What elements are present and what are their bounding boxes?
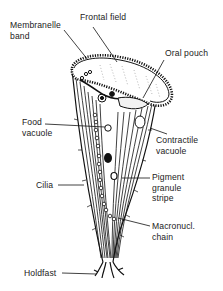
contractile-vacuole bbox=[135, 116, 145, 128]
pigment-body bbox=[104, 153, 112, 163]
food-vacuole bbox=[105, 125, 111, 131]
label-contractile-vacuole: Contractile vacuole bbox=[156, 135, 198, 156]
label-oral-pouch: Oral pouch bbox=[165, 48, 208, 59]
label-line: band bbox=[10, 31, 61, 42]
label-pigment-granule-stripe: Pigment granule stripe bbox=[152, 172, 184, 204]
label-line: vacuole bbox=[156, 146, 198, 157]
label-food-vacuole: Food vacuole bbox=[22, 117, 52, 138]
holdfast bbox=[94, 262, 124, 278]
label-line: chain bbox=[152, 232, 195, 243]
label-line: vacuole bbox=[22, 128, 52, 139]
label-cilia: Cilia bbox=[36, 180, 53, 191]
label-macronucleus-chain: Macronucl. chain bbox=[152, 221, 195, 242]
label-line: Food bbox=[22, 117, 52, 128]
label-line: Membranelle bbox=[10, 20, 61, 31]
label-line: Contractile bbox=[156, 135, 198, 146]
pigment-granule bbox=[111, 173, 117, 180]
label-line: Macronucl. bbox=[152, 221, 195, 232]
label-line: granule bbox=[152, 183, 184, 194]
label-holdfast: Holdfast bbox=[24, 268, 56, 279]
stentor-diagram: Membranelle band Frontal field Oral pouc… bbox=[0, 0, 223, 291]
label-line: Pigment bbox=[152, 172, 184, 183]
label-membranelle-band: Membranelle band bbox=[10, 20, 61, 41]
label-frontal-field: Frontal field bbox=[80, 12, 126, 23]
label-line: stripe bbox=[152, 193, 184, 204]
